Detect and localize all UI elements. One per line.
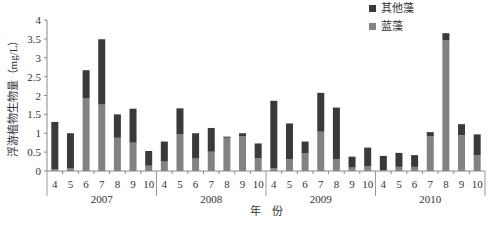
month-label: 7 — [209, 178, 215, 190]
bar-segment — [458, 124, 465, 135]
bar-segment — [223, 138, 230, 171]
y-tick-label: 3.5 — [27, 33, 41, 45]
bar-segment — [442, 40, 449, 171]
bar-segment — [255, 158, 262, 171]
bar-segment — [411, 155, 418, 167]
month-label: 4 — [162, 178, 168, 190]
bar-segment — [208, 128, 215, 152]
month-label: 9 — [240, 178, 246, 190]
bar-segment — [83, 70, 90, 98]
month-label: 6 — [302, 178, 308, 190]
year-label: 2010 — [419, 193, 442, 205]
bar-segment — [286, 159, 293, 171]
bar-segment — [302, 153, 309, 171]
bar-segment — [349, 168, 356, 171]
bar-segment — [192, 133, 199, 158]
bar-segment — [427, 132, 434, 136]
year-label: 2009 — [310, 193, 333, 205]
legend-swatch — [369, 5, 376, 12]
bar-segment — [474, 134, 481, 155]
bar-segment — [83, 99, 90, 171]
bar-segment — [114, 138, 121, 171]
y-axis-title: 浮游植物生物量（mg/L） — [6, 35, 19, 158]
bar-segment — [411, 167, 418, 171]
bar-segment — [161, 162, 168, 171]
bar-segment — [208, 152, 215, 171]
y-tick-label: 0.5 — [27, 146, 41, 158]
month-label: 8 — [115, 178, 121, 190]
month-label: 6 — [83, 178, 89, 190]
bar-segment — [98, 39, 105, 104]
bar-segment — [130, 109, 137, 143]
y-tick-label: 1.5 — [27, 108, 41, 120]
legend-label: 蓝藻 — [381, 20, 403, 32]
bar-segment — [67, 133, 74, 168]
y-tick-label: 0 — [36, 165, 42, 177]
bar-segment — [51, 122, 58, 169]
month-label: 8 — [224, 178, 230, 190]
bar-segment — [239, 133, 246, 136]
bar-segment — [474, 155, 481, 171]
bar-segment — [145, 151, 152, 166]
y-tick-label: 2 — [36, 90, 42, 102]
bar-segment — [364, 148, 371, 166]
month-label: 7 — [428, 178, 434, 190]
bar-segment — [302, 142, 309, 154]
y-tick-label: 2.5 — [27, 71, 41, 83]
bar-segment — [98, 105, 105, 171]
bars — [51, 33, 480, 171]
month-label: 4 — [381, 178, 387, 190]
month-label: 7 — [318, 178, 324, 190]
bar-segment — [239, 136, 246, 171]
bar-segment — [333, 108, 340, 160]
bar-segment — [145, 166, 152, 171]
month-label: 7 — [99, 178, 105, 190]
y-tick-label: 4 — [36, 14, 42, 26]
month-label: 5 — [287, 178, 293, 190]
month-label: 4 — [52, 178, 58, 190]
bar-segment — [270, 101, 277, 169]
bar-segment — [223, 137, 230, 138]
month-label: 5 — [396, 178, 402, 190]
year-label: 2007 — [91, 193, 114, 205]
bar-segment — [176, 108, 183, 134]
month-label: 9 — [130, 178, 136, 190]
y-tick-label: 1 — [36, 127, 42, 139]
bar-segment — [286, 123, 293, 159]
legend-swatch — [369, 23, 376, 30]
bar-segment — [395, 167, 402, 171]
bar-segment — [333, 159, 340, 171]
bar-segment — [161, 142, 168, 162]
bar-segment — [176, 134, 183, 171]
y-tick-label: 3 — [36, 52, 42, 64]
bar-segment — [442, 33, 449, 40]
bar-segment — [395, 153, 402, 167]
legend-label: 其他藻 — [381, 2, 414, 14]
month-label: 8 — [443, 178, 449, 190]
bar-segment — [317, 132, 324, 171]
bar-segment — [130, 143, 137, 171]
month-label: 10 — [143, 178, 155, 190]
month-label: 6 — [193, 178, 199, 190]
bar-segment — [255, 143, 262, 158]
bar-segment — [317, 93, 324, 132]
month-label: 10 — [362, 178, 374, 190]
bar-segment — [349, 157, 356, 168]
bar-segment — [364, 166, 371, 171]
month-label: 5 — [68, 178, 74, 190]
month-label: 9 — [349, 178, 355, 190]
bar-segment — [458, 135, 465, 171]
x-axis: 4567891020074567891020084567891020094567… — [47, 171, 485, 205]
month-label: 10 — [472, 178, 484, 190]
year-label: 2008 — [200, 193, 223, 205]
bar-segment — [114, 114, 121, 137]
month-label: 10 — [253, 178, 265, 190]
month-label: 8 — [334, 178, 340, 190]
month-label: 5 — [177, 178, 183, 190]
month-label: 9 — [459, 178, 465, 190]
y-axis: 00.511.522.533.54 — [27, 14, 47, 177]
month-label: 6 — [412, 178, 418, 190]
month-label: 4 — [271, 178, 277, 190]
bar-segment — [427, 136, 434, 171]
bar-segment — [380, 156, 387, 170]
